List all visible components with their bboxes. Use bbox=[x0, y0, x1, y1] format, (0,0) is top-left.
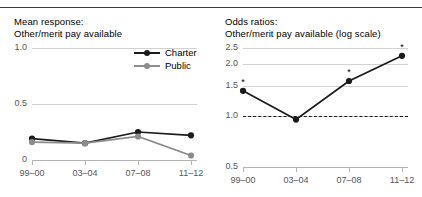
data-point bbox=[188, 152, 194, 158]
chart-panel-mean-response: Mean response: Other/merit pay available… bbox=[0, 0, 211, 197]
plot-area-odds-ratios: 0.51.01.52.02.599–0003–0407–0811–12*** bbox=[211, 0, 422, 197]
legend-item-charter: Charter bbox=[134, 46, 197, 59]
data-point bbox=[240, 88, 246, 94]
significance-marker: * bbox=[347, 67, 351, 77]
significance-marker: * bbox=[241, 77, 245, 87]
series-line-public bbox=[32, 136, 191, 155]
series-layer: *** bbox=[211, 0, 422, 197]
chart-panel-odds-ratios: Odds ratios: Other/merit pay available (… bbox=[211, 0, 422, 197]
legend-item-public: Public bbox=[134, 59, 197, 72]
data-point bbox=[293, 116, 299, 122]
significance-marker: * bbox=[400, 42, 404, 52]
series-line-odds ratio bbox=[243, 56, 402, 120]
plot-area-mean-response: 00.51.099–0003–0407–0811–12 bbox=[0, 0, 211, 197]
legend-swatch-public-icon bbox=[134, 61, 160, 70]
data-point bbox=[82, 140, 88, 146]
legend-label-charter: Charter bbox=[165, 47, 197, 58]
data-point bbox=[188, 132, 194, 138]
data-point bbox=[135, 133, 141, 139]
series-line-charter bbox=[32, 132, 191, 143]
chart-legend: Charter Public bbox=[134, 46, 197, 72]
data-point bbox=[346, 78, 352, 84]
legend-swatch-charter-icon bbox=[134, 48, 160, 57]
data-point bbox=[399, 53, 405, 59]
series-layer bbox=[0, 0, 211, 197]
legend-label-public: Public bbox=[165, 60, 191, 71]
data-point bbox=[29, 139, 35, 145]
